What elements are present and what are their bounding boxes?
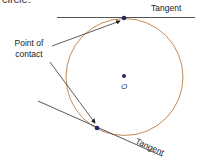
center-label: O bbox=[121, 81, 127, 92]
contact-point-top bbox=[122, 16, 127, 21]
point-of-contact-label: Point of contact bbox=[9, 38, 49, 60]
poc-line-1: Point of bbox=[9, 38, 49, 49]
center-point bbox=[122, 74, 126, 78]
poc-line-2: contact bbox=[9, 49, 49, 60]
tangent-label-top: Tangent bbox=[151, 3, 181, 14]
arrow-to-bottom-point bbox=[50, 62, 95, 123]
tangent-diagram bbox=[0, 0, 202, 167]
arrow-to-top-point bbox=[52, 21, 120, 46]
contact-point-bottom bbox=[95, 126, 100, 131]
